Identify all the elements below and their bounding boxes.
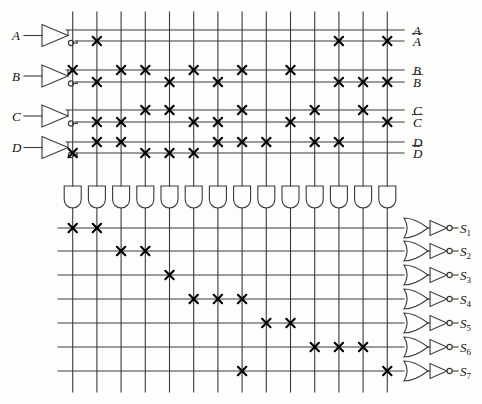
or-gate-3[interactable] [404,265,428,285]
input-label-d: D [11,140,22,155]
and-gate-8[interactable] [234,186,251,208]
or-gate-2[interactable] [404,241,428,261]
output-buffer-5[interactable] [430,316,452,331]
output-label-output-s5: S5 [460,316,472,333]
input-line-label-line-d-bar: D [412,146,423,161]
output-label-output-s7: S7 [460,364,472,381]
input-line-label-line-b-bar: B [413,75,421,90]
output-buffer-7[interactable] [430,364,452,379]
input-driver-b[interactable] [42,65,74,87]
and-gate-13[interactable] [355,186,372,208]
output-buffer-1[interactable] [430,221,452,236]
input-line-label-line-a-bar: A [412,34,421,49]
output-label-output-s3: S3 [460,268,472,285]
output-label-output-s4: S4 [460,292,472,309]
or-gate-7[interactable] [404,361,428,381]
output-label-output-s1: S1 [460,221,471,238]
pla-diagram: ABCDAABBCCDDS1S2S3S4S5S6S7 [0,0,482,404]
and-gate-4[interactable] [137,186,154,208]
output-label-output-s2: S2 [460,244,471,261]
or-gate-1[interactable] [404,218,428,238]
input-label-c: C [12,109,21,124]
pla-schematic-canvas: ABCDAABBCCDDS1S2S3S4S5S6S7 [0,0,482,404]
output-buffer-2[interactable] [430,244,452,259]
input-label-a: A [11,28,20,43]
output-buffer-4[interactable] [430,292,452,307]
output-label-output-s6: S6 [460,340,472,357]
or-gate-6[interactable] [404,337,428,357]
or-gate-5[interactable] [404,313,428,333]
output-buffer-3[interactable] [430,268,452,283]
and-gate-12[interactable] [330,186,347,208]
and-gate-10[interactable] [282,186,299,208]
input-driver-c[interactable] [42,105,74,127]
and-gate-11[interactable] [306,186,323,208]
and-gate-1[interactable] [64,186,81,208]
and-gate-6[interactable] [185,186,202,208]
and-gate-9[interactable] [258,186,275,208]
and-gate-2[interactable] [88,186,105,208]
input-driver-a[interactable] [42,25,74,47]
input-line-label-line-c-bar: C [413,115,422,130]
and-gate-3[interactable] [113,186,130,208]
and-gate-14[interactable] [379,186,396,208]
input-label-b: B [12,69,20,84]
input-driver-d[interactable] [42,137,74,159]
and-gate-7[interactable] [209,186,226,208]
output-buffer-6[interactable] [430,340,452,355]
or-gate-4[interactable] [404,289,428,309]
and-gate-5[interactable] [161,186,178,208]
